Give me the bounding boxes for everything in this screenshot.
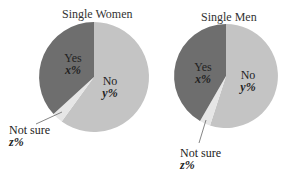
men-title: Single Men xyxy=(201,10,257,25)
women-notsure-label: Not sure z% xyxy=(9,124,50,148)
men-no-label: No y% xyxy=(236,69,260,93)
women-no-label: No y% xyxy=(98,75,122,99)
women-title: Single Women xyxy=(62,7,132,22)
men-notsure-label: Not sure z% xyxy=(180,147,221,171)
men-pie xyxy=(174,24,278,143)
women-pie xyxy=(36,22,149,132)
women-yes-label: Yes x% xyxy=(62,52,84,76)
men-yes-label: Yes x% xyxy=(192,61,214,85)
men-notsure-leader xyxy=(199,120,206,143)
